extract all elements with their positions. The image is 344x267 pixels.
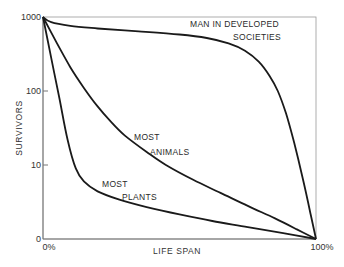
annotation-plants-line2: PLANTS xyxy=(122,192,157,202)
y-axis-title: SURVIVORS xyxy=(14,100,24,155)
x-tick-label: 100% xyxy=(310,242,333,252)
annotation-plants-line1: MOST xyxy=(102,179,128,189)
plot-frame xyxy=(43,17,316,239)
survivorship-chart: 1000100100 0%100% SURVIVORS LIFE SPAN MA… xyxy=(0,0,344,267)
annotation-animals-line1: MOST xyxy=(134,132,160,142)
y-ticks: 1000100100 xyxy=(21,12,48,244)
y-tick-label: 1000 xyxy=(21,12,41,22)
most-animals-line xyxy=(43,17,316,239)
annotation-man-line2: SOCIETIES xyxy=(233,32,281,42)
annotation-man-line1: MAN IN DEVELOPED xyxy=(190,19,279,29)
y-tick-label: 10 xyxy=(31,160,41,170)
annotation-animals-line2: ANIMALS xyxy=(150,147,189,157)
man-in-developed-societies-line xyxy=(43,17,316,239)
most-plants-line xyxy=(43,17,316,239)
series-lines xyxy=(43,17,316,239)
y-tick-label: 0 xyxy=(36,234,41,244)
x-tick-label: 0% xyxy=(42,242,55,252)
x-axis-title: LIFE SPAN xyxy=(153,246,201,256)
y-tick-label: 100 xyxy=(26,86,41,96)
